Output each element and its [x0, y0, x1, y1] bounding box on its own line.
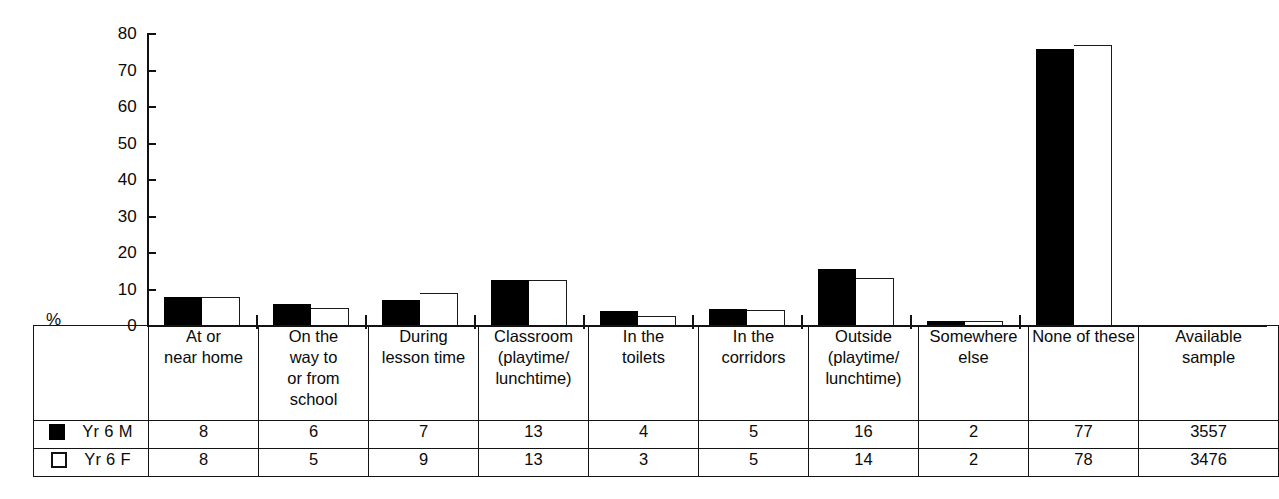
- table-cell: 7: [369, 421, 479, 449]
- header-line: corridors: [699, 347, 808, 368]
- table-cell: 77: [1029, 421, 1139, 449]
- y-axis-tick-label: 30: [89, 208, 137, 225]
- header-line: On the: [259, 326, 368, 347]
- y-axis-tick-label: 60: [89, 98, 137, 115]
- table-cell: 8: [149, 421, 259, 449]
- legend-label: Yr 6 F: [84, 450, 131, 468]
- bar-pair: [1019, 34, 1128, 326]
- bar-group: [583, 34, 692, 326]
- bar-group: [801, 34, 910, 326]
- y-axis-tick-label: 20: [89, 244, 137, 261]
- table-header-cell: Duringlesson time: [369, 326, 479, 421]
- table-cell: 2: [919, 421, 1029, 449]
- bar-group: [474, 34, 583, 326]
- bar-yr6f: [202, 297, 240, 326]
- bar-yr6m: [1036, 49, 1074, 326]
- header-line: lunchtime): [479, 368, 588, 389]
- bar-yr6m: [382, 300, 420, 326]
- header-line: Classroom: [479, 326, 588, 347]
- bar-group: [692, 34, 801, 326]
- y-axis-tick-label: 40: [89, 171, 137, 188]
- bar-pair: [365, 34, 474, 326]
- table-cell: 4: [589, 421, 699, 449]
- bar-pair: [692, 34, 801, 326]
- table-header-cell: Classroom(playtime/lunchtime): [479, 326, 589, 421]
- table-header-cell: Availablesample: [1139, 326, 1279, 421]
- legend-label: Yr 6 M: [82, 422, 132, 440]
- bar-yr6f: [856, 278, 894, 326]
- legend-corner-cell: [34, 326, 149, 421]
- table-header-cell: Outside(playtime/lunchtime): [809, 326, 919, 421]
- bar-yr6f: [1074, 45, 1112, 326]
- data-table-wrapper: At ornear homeOn theway toor fromschoolD…: [33, 325, 1267, 477]
- header-line: In the: [589, 326, 698, 347]
- bar-yr6f: [311, 308, 349, 326]
- y-axis-tick-label: 10: [89, 281, 137, 298]
- table-body: Yr 6 M8671345162773557Yr 6 F859133514278…: [34, 421, 1279, 477]
- bar-group: [1019, 34, 1128, 326]
- bar-group: [365, 34, 474, 326]
- table-cell: 14: [809, 449, 919, 477]
- hollow-square-icon: [51, 452, 67, 468]
- bar-pair: [256, 34, 365, 326]
- bar-yr6f: [747, 310, 785, 326]
- table-header-row: At ornear homeOn theway toor fromschoolD…: [34, 326, 1279, 421]
- bar-yr6m: [491, 280, 529, 326]
- header-line: sample: [1139, 347, 1278, 368]
- table-cell: 5: [699, 449, 809, 477]
- table-row: Yr 6 F8591335142783476: [34, 449, 1279, 477]
- bar-yr6f: [529, 280, 567, 326]
- table-row: Yr 6 M8671345162773557: [34, 421, 1279, 449]
- bar-group: [910, 34, 1019, 326]
- legend-cell: Yr 6 F: [34, 449, 149, 477]
- bar-pair: [910, 34, 1019, 326]
- table-cell: 78: [1029, 449, 1139, 477]
- y-axis-tick-label: 50: [89, 135, 137, 152]
- bar-pair: [583, 34, 692, 326]
- header-line: way to: [259, 347, 368, 368]
- bar-pair: [474, 34, 583, 326]
- header-line: At or: [149, 326, 258, 347]
- table-cell: 2: [919, 449, 1029, 477]
- bar-yr6m: [818, 269, 856, 326]
- bar-yr6m: [164, 297, 202, 326]
- bar-group: [256, 34, 365, 326]
- table-cell: 3476: [1139, 449, 1279, 477]
- header-line: or from: [259, 368, 368, 389]
- filled-square-icon: [49, 424, 65, 440]
- table-cell: 16: [809, 421, 919, 449]
- bar-yr6m: [273, 304, 311, 326]
- bar-pair: [801, 34, 910, 326]
- header-line: school: [259, 389, 368, 410]
- y-axis-tick-label: 80: [89, 25, 137, 42]
- header-line: None of these: [1029, 326, 1138, 347]
- header-line: lunchtime): [809, 368, 918, 389]
- table-cell: 5: [699, 421, 809, 449]
- table-header-cell: At ornear home: [149, 326, 259, 421]
- header-line: Outside: [809, 326, 918, 347]
- table-cell: 13: [479, 421, 589, 449]
- table-header-cell: In thetoilets: [589, 326, 699, 421]
- table-header-cell: In thecorridors: [699, 326, 809, 421]
- bar-group: [147, 34, 256, 326]
- header-line: near home: [149, 347, 258, 368]
- bar-yr6f: [420, 293, 458, 326]
- header-line: During: [369, 326, 478, 347]
- header-line: In the: [699, 326, 808, 347]
- table-cell: 3: [589, 449, 699, 477]
- header-line: lesson time: [369, 347, 478, 368]
- bar-yr6m: [709, 309, 747, 326]
- header-line: (playtime/: [809, 347, 918, 368]
- table-header-cell: On theway toor fromschool: [259, 326, 369, 421]
- header-line: toilets: [589, 347, 698, 368]
- table-cell: 9: [369, 449, 479, 477]
- table-header: At ornear homeOn theway toor fromschoolD…: [34, 326, 1279, 421]
- y-axis-tick-label: 70: [89, 62, 137, 79]
- table-cell: 5: [259, 449, 369, 477]
- table-cell: 6: [259, 421, 369, 449]
- plot-area: [147, 34, 1128, 326]
- data-table: At ornear homeOn theway toor fromschoolD…: [33, 325, 1279, 477]
- legend-cell: Yr 6 M: [34, 421, 149, 449]
- header-line: Somewhere: [919, 326, 1028, 347]
